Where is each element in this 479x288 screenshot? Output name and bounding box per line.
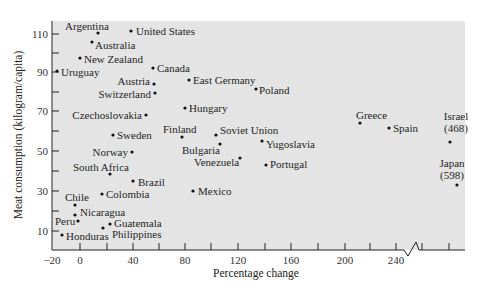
label-united-states: United States [136, 25, 195, 37]
label-mexico: Mexico [198, 185, 232, 197]
label-spain: Spain [393, 122, 419, 134]
label-poland: Poland [259, 84, 290, 96]
y-tick-label: 90 [37, 66, 49, 78]
label-bulgaria: Bulgaria [182, 144, 220, 156]
label-japan-value: (598) [440, 169, 464, 182]
x-tick-label: 80 [180, 254, 192, 266]
point-israel [448, 140, 451, 143]
x-tick-label: 120 [230, 254, 247, 266]
label-new-zealand: New Zealand [84, 53, 143, 65]
y-axis-title: Meat consumption (kilogram/capita) [12, 51, 25, 220]
point-east-germany [187, 78, 190, 81]
x-tick-labels: −20 0 40 80 120 160 200 240 [43, 254, 404, 266]
point-portugal [264, 163, 267, 166]
x-tick-label: 0 [77, 254, 83, 266]
point-greece [358, 121, 361, 124]
label-canada: Canada [157, 62, 190, 74]
label-venezuela: Venezuela [194, 156, 239, 168]
label-peru: Peru [55, 215, 76, 227]
label-norway: Norway [93, 146, 129, 158]
y-tick-label: 10 [37, 225, 49, 237]
point-honduras [60, 233, 63, 236]
point-guatemala [108, 222, 111, 225]
label-portugal: Portugal [270, 158, 307, 170]
point-czechoslovakia [144, 113, 147, 116]
point-hungary [183, 106, 186, 109]
label-brazil: Brazil [138, 176, 165, 188]
point-uruguay [55, 69, 58, 72]
point-japan [455, 183, 458, 186]
y-tick-labels: 110 90 70 50 30 10 [32, 28, 49, 237]
label-yugoslavia: Yugoslavia [266, 138, 315, 150]
x-tick-label: 40 [128, 254, 140, 266]
label-israel-value: (468) [444, 122, 468, 135]
label-czechoslovakia: Czechoslovakia [72, 109, 142, 121]
label-australia: Australia [95, 39, 135, 51]
x-tick-label: 200 [337, 254, 354, 266]
x-tick-label: 240 [388, 254, 405, 266]
label-israel: Israel [444, 110, 468, 122]
point-canada [151, 66, 154, 69]
x-tick-label: −20 [43, 254, 61, 266]
point-soviet-union [214, 133, 217, 136]
y-tick-label: 30 [37, 185, 49, 197]
label-japan: Japan [439, 157, 465, 169]
label-east-germany: East Germany [193, 74, 256, 86]
scatter-chart: 110 90 70 50 30 10 −20 0 40 80 120 160 2… [0, 0, 479, 288]
point-colombia [100, 192, 103, 195]
point-norway [130, 150, 133, 153]
label-philippines: Philippines [112, 228, 162, 240]
label-uruguay: Uruguay [61, 66, 100, 78]
label-sweden: Sweden [117, 129, 152, 141]
point-united-states [129, 29, 132, 32]
point-sweden [111, 133, 114, 136]
label-switzerland: Switzerland [98, 88, 151, 100]
point-finland [180, 135, 183, 138]
point-mexico [191, 189, 194, 192]
label-austria: Austria [118, 75, 151, 87]
point-chile [73, 203, 76, 206]
point-australia [90, 40, 93, 43]
label-argentina: Argentina [65, 20, 109, 32]
point-new-zealand [78, 56, 81, 59]
y-tick-label: 70 [37, 105, 49, 117]
point-switzerland [153, 91, 156, 94]
label-hungary: Hungary [189, 102, 228, 114]
y-tick-label: 50 [37, 145, 49, 157]
label-honduras: Honduras [66, 230, 109, 242]
y-tick-label: 110 [32, 28, 49, 40]
label-finland: Finland [163, 123, 197, 135]
label-greece: Greece [356, 109, 387, 121]
label-colombia: Colombia [106, 188, 150, 200]
point-spain [387, 126, 390, 129]
point-brazil [131, 179, 134, 182]
x-tick-label: 160 [283, 254, 300, 266]
point-yugoslavia [260, 139, 263, 142]
point-austria [152, 82, 155, 85]
label-south-africa: South Africa [73, 161, 129, 173]
point-peru [76, 219, 79, 222]
label-soviet-union: Soviet Union [220, 124, 279, 136]
label-chile: Chile [65, 191, 89, 203]
x-axis-title: Percentage change [213, 267, 299, 280]
point-poland [254, 87, 257, 90]
